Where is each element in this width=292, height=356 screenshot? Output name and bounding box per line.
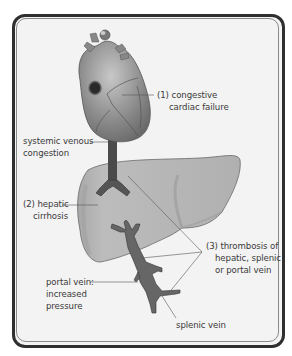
diagram-artwork <box>0 0 292 356</box>
label-line: portal vein: <box>46 276 94 288</box>
leader-splenic <box>162 296 176 318</box>
label-line: (3) thrombosis of <box>206 240 281 252</box>
label-hepatic-cirrhosis: (2) hepatic cirrhosis <box>23 198 69 222</box>
label-line: pressure <box>46 300 94 312</box>
label-line: cirrhosis <box>23 210 69 222</box>
label-line: increased <box>46 288 94 300</box>
label-line: congestion <box>23 147 93 159</box>
label-line: hepatic, splenic <box>206 252 281 264</box>
label-thrombosis: (3) thrombosis of hepatic, splenic or po… <box>206 240 281 276</box>
leader-thrombosis-portal <box>142 252 202 258</box>
label-line: (2) hepatic <box>23 198 69 210</box>
heart <box>79 30 150 142</box>
label-congestive-failure: (1) congestive cardiac failure <box>157 89 229 113</box>
label-systemic-congestion: systemic venous congestion <box>23 135 93 159</box>
label-line: splenic vein <box>176 319 226 331</box>
leader-thrombosis-splenic <box>168 252 202 294</box>
label-line: cardiac failure <box>157 101 229 113</box>
label-line: systemic venous <box>23 135 93 147</box>
label-line: (1) congestive <box>157 89 229 101</box>
label-splenic-vein: splenic vein <box>176 319 226 331</box>
label-line: or portal vein <box>206 264 281 276</box>
label-portal-pressure: portal vein: increased pressure <box>46 276 94 312</box>
